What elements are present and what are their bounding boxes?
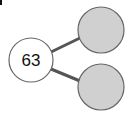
corner-mark bbox=[0, 0, 2, 5]
part-circle-top[interactable] bbox=[78, 7, 124, 53]
connector-top bbox=[51, 38, 80, 52]
connector-bottom bbox=[51, 69, 80, 81]
whole-circle: 63 bbox=[9, 38, 53, 82]
number-bond-diagram: 63 bbox=[0, 0, 132, 116]
part-circle-bottom[interactable] bbox=[78, 64, 124, 110]
whole-value: 63 bbox=[22, 51, 41, 70]
